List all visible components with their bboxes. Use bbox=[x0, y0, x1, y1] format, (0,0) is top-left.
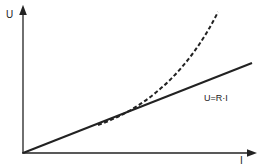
x-axis-label: I bbox=[240, 155, 243, 166]
y-axis-label: U bbox=[6, 9, 13, 20]
diagram-canvas bbox=[0, 0, 262, 166]
nonlinear-curve bbox=[98, 12, 218, 125]
linear-equation-label: U=R·I bbox=[204, 93, 228, 103]
linear-line bbox=[23, 63, 252, 153]
